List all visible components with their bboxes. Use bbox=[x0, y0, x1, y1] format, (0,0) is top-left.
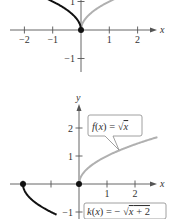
top-neg-sqrt-curve bbox=[41, 0, 81, 30]
y-tick-label: 1 bbox=[68, 151, 73, 162]
bottom-x-axis-label: x bbox=[159, 178, 165, 189]
bottom-sqrt-curve bbox=[79, 137, 157, 184]
x-tick-label: 1 bbox=[105, 188, 110, 199]
figure: x −2−112 1−1 x y 12 21−1 f(x) = √x bbox=[0, 0, 177, 219]
bottom-x-axis-arrow bbox=[150, 182, 157, 187]
f-callout-text: f(x) = √x bbox=[92, 121, 129, 133]
bottom-graph: x y 12 21−1 f(x) = √x k(x) = − √x + 2 bbox=[10, 92, 166, 219]
y-tick-label: 2 bbox=[68, 123, 73, 134]
top-x-axis-label: x bbox=[159, 24, 165, 35]
y-tick-label: −1 bbox=[64, 53, 75, 64]
top-x-axis-arrow bbox=[150, 28, 157, 33]
k-callout-text: k(x) = − √x + 2 bbox=[87, 206, 150, 218]
bottom-k-curve bbox=[23, 184, 57, 215]
bottom-y-axis-arrow bbox=[77, 104, 82, 111]
x-tick-label: −1 bbox=[47, 34, 58, 45]
x-tick-label: 1 bbox=[107, 34, 112, 45]
k-callout: k(x) = − √x + 2 bbox=[84, 203, 166, 219]
top-sqrt-curve bbox=[81, 0, 160, 30]
y-tick-label: −1 bbox=[62, 207, 73, 218]
bottom-origin-point bbox=[76, 181, 82, 187]
top-graph: x −2−112 1−1 bbox=[10, 0, 165, 72]
bottom-y-axis-label: y bbox=[75, 92, 81, 103]
y-tick-label: 1 bbox=[70, 0, 75, 7]
x-tick-label: −2 bbox=[19, 34, 30, 45]
top-origin-point bbox=[78, 27, 84, 33]
bottom-start-point bbox=[20, 181, 26, 187]
x-tick-label: 2 bbox=[133, 188, 138, 199]
x-tick-label: 2 bbox=[135, 34, 140, 45]
